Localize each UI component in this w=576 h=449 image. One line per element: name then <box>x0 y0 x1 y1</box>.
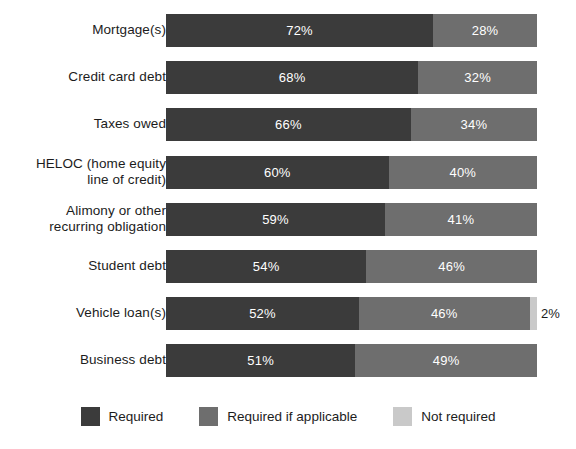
bar-segment-req-if: 46% <box>366 250 537 283</box>
bar-segment-value: 51% <box>247 353 274 368</box>
bar-track: 51%49% <box>166 344 537 377</box>
bar-track: 72%28% <box>166 14 537 47</box>
bar-track: 68%32% <box>166 61 537 94</box>
bar-segment-req: 72% <box>166 14 433 47</box>
bar-segment-req: 54% <box>166 250 366 283</box>
bar-segment-value: 41% <box>448 212 475 227</box>
bar-row-label: Mortgage(s) <box>0 22 166 38</box>
bar-segment-value: 60% <box>264 165 291 180</box>
bar-segment-req: 68% <box>166 61 418 94</box>
bar-track: 60%40% <box>166 156 537 189</box>
bar-segment-value: 54% <box>253 259 280 274</box>
legend-swatch-icon <box>393 407 412 426</box>
chart-plot-area: Mortgage(s)72%28%Credit card debt68%32%T… <box>0 0 576 396</box>
bar-segment-req-if: 46% <box>359 297 530 330</box>
bar-track: 52%46% <box>166 297 537 330</box>
bar-segment-value: 72% <box>286 23 313 38</box>
bar-segment-req-if: 28% <box>433 14 537 47</box>
bar-track: 66%34% <box>166 108 537 141</box>
bar-segment-value: 68% <box>279 70 306 85</box>
bar-segment-value: 52% <box>249 306 276 321</box>
bar-segment-req-if: 49% <box>355 344 537 377</box>
legend-swatch-icon <box>199 407 218 426</box>
bar-track: 59%41% <box>166 203 537 236</box>
bar-segment-req: 52% <box>166 297 359 330</box>
bar-segment-value: 49% <box>433 353 460 368</box>
legend-label: Required <box>109 409 164 424</box>
bar-segment-req: 66% <box>166 108 411 141</box>
bar-segment-req: 59% <box>166 203 385 236</box>
legend-item[interactable]: Required <box>81 407 164 426</box>
legend-label: Not required <box>421 409 495 424</box>
bar-row-label: Alimony or other recurring obligation <box>0 203 166 235</box>
legend-label: Required if applicable <box>227 409 357 424</box>
bar-segment-value: 66% <box>275 117 302 132</box>
bar-segment-req-if: 40% <box>389 156 537 189</box>
bar-row: Alimony or other recurring obligation59%… <box>0 203 576 236</box>
bar-row-label: Vehicle loan(s) <box>0 305 166 321</box>
bar-segment-req: 60% <box>166 156 389 189</box>
chart-legend: RequiredRequired if applicableNot requir… <box>0 404 576 428</box>
bar-segment-value: 28% <box>472 23 499 38</box>
legend-item[interactable]: Required if applicable <box>199 407 357 426</box>
bar-row-label: HELOC (home equity line of credit) <box>0 156 166 188</box>
bar-segment-req-if: 41% <box>385 203 537 236</box>
legend-item[interactable]: Not required <box>393 407 495 426</box>
bar-row: Business debt51%49% <box>0 344 576 377</box>
bar-row: Student debt54%46% <box>0 250 576 283</box>
bar-track: 54%46% <box>166 250 537 283</box>
bar-segment-value: 40% <box>449 165 476 180</box>
bar-segment-value: 59% <box>262 212 289 227</box>
bar-segment-req-if: 34% <box>411 108 537 141</box>
bar-row-label: Student debt <box>0 258 166 274</box>
bar-segment-value: 46% <box>431 306 458 321</box>
stacked-bar-chart: Mortgage(s)72%28%Credit card debt68%32%T… <box>0 0 576 449</box>
bar-row: Credit card debt68%32% <box>0 61 576 94</box>
bar-row-label: Taxes owed <box>0 116 166 132</box>
bar-row: Taxes owed66%34% <box>0 108 576 141</box>
bar-row-label: Business debt <box>0 352 166 368</box>
bar-row: Mortgage(s)72%28% <box>0 14 576 47</box>
bar-segment-req-if: 32% <box>418 61 537 94</box>
bar-row-label: Credit card debt <box>0 69 166 85</box>
bar-segment-not-req <box>530 297 537 330</box>
bar-row: HELOC (home equity line of credit)60%40% <box>0 156 576 189</box>
bar-segment-value: 46% <box>438 259 465 274</box>
bar-row: Vehicle loan(s)52%46%2% <box>0 297 576 330</box>
bar-outside-value: 2% <box>541 297 560 330</box>
legend-swatch-icon <box>81 407 100 426</box>
bar-segment-req: 51% <box>166 344 355 377</box>
bar-segment-value: 32% <box>464 70 491 85</box>
bar-segment-value: 34% <box>461 117 488 132</box>
